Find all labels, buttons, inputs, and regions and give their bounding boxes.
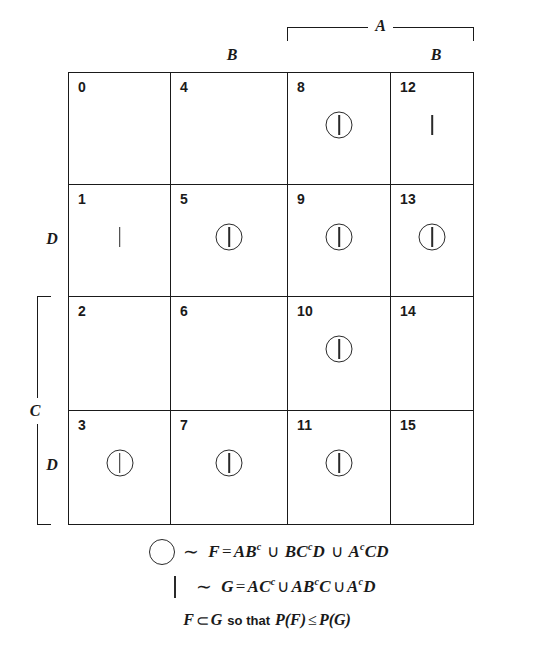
kmap-cell-marks [288, 217, 390, 257]
kmap-cell-index: 6 [180, 303, 188, 319]
kmap-cell-index: 10 [297, 303, 313, 319]
kmap-cell-marks [391, 217, 473, 257]
kmap-cell-marks [171, 105, 287, 145]
bar-symbol-icon [158, 576, 192, 598]
conclusion-prob-left: P(F) [275, 611, 306, 629]
conclusion-subset-icon: ⊂ [194, 611, 211, 630]
label-a: A [368, 17, 393, 35]
bar-mark-icon [338, 115, 340, 135]
tilde-icon-f: ∼ [179, 542, 208, 561]
expr-f-term3-tail: CD [365, 542, 389, 561]
kmap-cell-index: 9 [297, 191, 305, 207]
legend-line-f: ∼ F=ABc ∪ BCcD ∪ AcCD [0, 534, 534, 569]
expr-g-eq: = [234, 577, 248, 596]
kmap-cell: 8 [288, 73, 391, 185]
kmap-cell-marks [69, 217, 170, 257]
expr-g-union2: ∪ [331, 577, 347, 596]
kmap-cell: 15 [391, 411, 473, 524]
kmap-cell-index: 3 [78, 417, 86, 433]
kmap-mark-group [214, 448, 244, 478]
expr-g-term3-base: A [347, 577, 359, 596]
circle-symbol-icon [145, 539, 179, 565]
kmap-cell: 14 [391, 297, 473, 411]
kmap-cell: 2 [69, 297, 171, 411]
expr-f-term3-base: A [348, 542, 360, 561]
kmap-cell-marks [391, 443, 473, 483]
expr-f-term1-base: AB [234, 542, 257, 561]
kmap-cell-marks [69, 443, 170, 483]
expr-f-union1: ∪ [265, 542, 281, 561]
kmap-mark-group [324, 222, 354, 252]
kmap-cell: 3 [69, 411, 171, 524]
kmap-cell-index: 11 [297, 417, 312, 433]
kmap-cell: 9 [288, 185, 391, 297]
kmap-cell-index: 4 [180, 79, 188, 95]
row-label-d-lower: D [41, 456, 63, 474]
expr-f-term1-sup: c [257, 541, 262, 552]
expr-g-head: G [221, 577, 233, 596]
kmap-cell: 12 [391, 73, 473, 185]
kmap-cell-marks [391, 329, 473, 369]
kmap-cell-marks [391, 105, 473, 145]
legend-expression-g: G=ACc∪ABcC∪AcD [221, 576, 375, 597]
bar-mark-icon [431, 115, 433, 135]
kmap-mark-group [105, 222, 135, 252]
legend: ∼ F=ABc ∪ BCcD ∪ AcCD ∼ G=ACc∪ABcC∪AcD F… [0, 534, 534, 636]
expr-f-eq: = [220, 542, 234, 561]
column-label-b-left: B [192, 46, 272, 64]
kmap-mark-group [214, 222, 244, 252]
kmap-cell-marks [288, 329, 390, 369]
tilde-icon-g: ∼ [192, 577, 221, 596]
kmap-cell: 6 [171, 297, 288, 411]
kmap-cell-index: 2 [78, 303, 86, 319]
conclusion-leq-icon: ≤ [306, 611, 319, 629]
left-bracket-c-label: C [24, 296, 46, 525]
expr-g-term2-base: AB [292, 577, 315, 596]
kmap-cell: 10 [288, 297, 391, 411]
legend-line-g: ∼ G=ACc∪ABcC∪AcD [0, 569, 534, 604]
kmap-mark-group [324, 334, 354, 364]
expr-f-term2-base: BC [285, 542, 308, 561]
expr-f-union2: ∪ [329, 542, 345, 561]
kmap-mark-group [417, 222, 447, 252]
expr-g-union1: ∪ [275, 577, 291, 596]
kmap-cell-marks [171, 217, 287, 257]
kmap-cell-index: 5 [180, 191, 188, 207]
kmap-cell: 4 [171, 73, 288, 185]
kmap-cell-marks [171, 329, 287, 369]
kmap-mark-group [417, 110, 447, 140]
kmap-cell: 0 [69, 73, 171, 185]
bar-mark-icon [338, 227, 340, 247]
bar-mark-icon [338, 453, 340, 473]
expr-g-term2-tail: C [319, 577, 331, 596]
kmap-cell-index: 0 [78, 79, 86, 95]
label-c: C [30, 398, 41, 424]
conclusion-prob-right: P(G) [319, 611, 351, 629]
expr-f-term2-tail: D [313, 542, 325, 561]
bar-mark-icon [228, 453, 230, 473]
bar-mark-icon [338, 339, 340, 359]
top-bracket-a-label: A [287, 17, 474, 35]
kmap-cell-marks [288, 443, 390, 483]
kmap-cell-marks [69, 329, 170, 369]
kmap-cell: 1 [69, 185, 171, 297]
column-label-b-right: B [396, 46, 476, 64]
kmap-cell: 7 [171, 411, 288, 524]
kmap-grid: 0481215913261014371115 [68, 72, 474, 525]
kmap-cell-index: 12 [400, 79, 416, 95]
bar-mark-icon [431, 227, 433, 247]
kmap-cell-marks [69, 105, 170, 145]
kmap-mark-group [324, 448, 354, 478]
kmap-cell-index: 1 [78, 191, 86, 207]
kmap-cell-index: 15 [400, 417, 416, 433]
bar-mark-icon [228, 227, 230, 247]
legend-conclusion: F⊂Gso thatP(F)≤P(G) [0, 604, 534, 636]
row-label-d-upper: D [41, 230, 63, 248]
conclusion-middle-text: so that [222, 613, 275, 628]
bar-mark-icon [119, 453, 121, 473]
legend-expression-f: F=ABc ∪ BCcD ∪ AcCD [208, 541, 388, 562]
karnaugh-map-figure: A B B C D D 0481215913261014371115 ∼ F=A… [0, 0, 534, 661]
kmap-cell-marks [171, 443, 287, 483]
kmap-cell-index: 8 [297, 79, 305, 95]
kmap-cell: 13 [391, 185, 473, 297]
